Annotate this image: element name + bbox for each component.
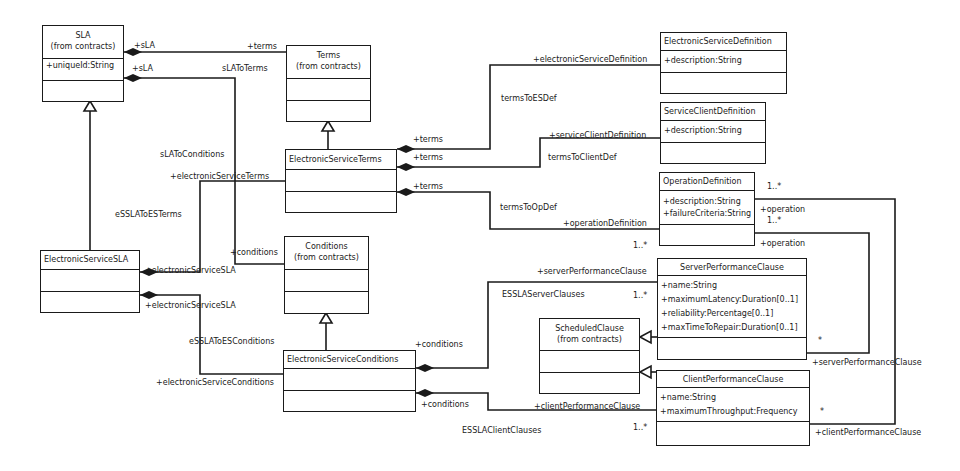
association-name: ESSLAServerClauses	[502, 290, 585, 299]
class-name: OperationDefinition	[663, 177, 742, 186]
attribute: +maximumThroughput:Frequency	[660, 405, 806, 419]
role-label: +electronicServiceDefinition	[533, 55, 647, 64]
role-label: +serviceClientDefinition	[549, 131, 646, 140]
operations-compartment	[660, 225, 754, 245]
role-label: +operation	[760, 239, 805, 248]
role-label: +electronicServiceSLA	[145, 301, 236, 310]
attribute: +maximumLatency:Duration[0..1]	[661, 293, 803, 307]
class-electronic-service-sla[interactable]: ElectronicServiceSLA	[40, 250, 140, 313]
multiplicity: 1..*	[633, 423, 647, 432]
class-electronic-service-conditions[interactable]: ElectronicServiceConditions	[283, 350, 416, 412]
class-name: Terms	[290, 50, 367, 61]
role-label: +sLA	[132, 64, 153, 73]
attribute: +reliability:Percentage[0..1]	[661, 307, 803, 321]
association-name: termsToOpDef	[500, 203, 557, 212]
attribute: +description:String	[664, 126, 762, 137]
role-label: +electronicServiceTerms	[170, 172, 269, 181]
class-name: ScheduledClause	[543, 323, 636, 334]
attribute: +maxTimeToRepair:Duration[0..1]	[661, 321, 803, 335]
class-name: ServiceClientDefinition	[664, 107, 755, 116]
operations-compartment	[658, 338, 806, 359]
role-label: +clientPerformanceClause	[815, 428, 921, 437]
operations-compartment	[285, 292, 368, 313]
class-electronic-service-terms[interactable]: ElectronicServiceTerms	[285, 149, 397, 213]
class-stereotype: (from contracts)	[46, 41, 120, 52]
class-sla[interactable]: SLA (from contracts) +uniqueId:String	[42, 25, 124, 102]
role-label: +conditions	[230, 248, 278, 257]
association-name: termsToClientDef	[548, 153, 617, 162]
association-name: sLAToTerms	[222, 64, 268, 73]
operations-compartment	[287, 101, 370, 121]
role-label: +electronicServiceConditions	[156, 378, 274, 387]
attribute: +uniqueId:String	[46, 61, 120, 72]
attribute: +description:String	[663, 196, 751, 208]
association-name: ESSLAClientClauses	[462, 426, 541, 435]
class-stereotype: (from contracts)	[543, 334, 636, 345]
class-terms[interactable]: Terms (from contracts)	[286, 45, 371, 122]
operations-compartment	[540, 373, 639, 393]
operations-compartment	[284, 391, 415, 411]
role-label: +conditions	[421, 400, 469, 409]
operations-compartment	[661, 143, 765, 163]
association-name: sLAToConditions	[160, 150, 224, 159]
class-operation-definition[interactable]: OperationDefinition +description:String …	[659, 172, 755, 246]
operations-compartment	[286, 192, 396, 212]
role-label: +terms	[413, 135, 443, 144]
association-name: eSSLAToESTerms	[115, 210, 182, 219]
class-stereotype: (from contracts)	[288, 252, 365, 263]
class-name: Conditions	[288, 241, 365, 252]
attribute: +description:String	[664, 56, 783, 67]
attribute: +name:String	[660, 391, 806, 405]
role-label: +terms	[247, 42, 277, 51]
multiplicity: 1..*	[767, 216, 781, 225]
class-name: ServerPerformanceClause	[680, 263, 784, 272]
class-name: ElectronicServiceTerms	[289, 155, 382, 164]
multiplicity: *	[818, 336, 822, 345]
attribute: +failureCriteria:String	[663, 208, 751, 220]
association-name: eSSLAToESConditions	[189, 337, 274, 346]
class-name: ElectronicServiceConditions	[287, 355, 398, 364]
role-label: +terms	[413, 182, 443, 191]
role-label: +serverPerformanceClause	[537, 267, 647, 276]
association-name: termsToESDef	[501, 94, 557, 103]
class-conditions[interactable]: Conditions (from contracts)	[284, 236, 369, 314]
operations-compartment	[41, 292, 139, 312]
role-label: +conditions	[415, 340, 463, 349]
class-stereotype: (from contracts)	[290, 61, 367, 72]
operations-compartment	[43, 81, 123, 101]
class-client-performance-clause[interactable]: ClientPerformanceClause +name:String +ma…	[656, 370, 810, 446]
multiplicity: 1..*	[767, 182, 781, 191]
role-label: +electronicServiceSLA	[145, 266, 236, 275]
role-label: +serverPerformanceClause	[812, 358, 922, 367]
class-name: ElectronicServiceSLA	[44, 255, 128, 264]
class-electronic-service-definition[interactable]: ElectronicServiceDefinition +description…	[660, 32, 787, 94]
operations-compartment	[661, 73, 786, 93]
class-service-client-definition[interactable]: ServiceClientDefinition +description:Str…	[660, 102, 766, 164]
multiplicity: 1..*	[633, 241, 647, 250]
role-label: +terms	[413, 153, 443, 162]
class-name: ClientPerformanceClause	[683, 375, 784, 384]
class-name: SLA	[46, 30, 120, 41]
class-name: ElectronicServiceDefinition	[664, 37, 772, 46]
class-scheduled-clause[interactable]: ScheduledClause (from contracts)	[539, 318, 640, 394]
multiplicity: *	[820, 407, 824, 416]
role-label: +operationDefinition	[563, 219, 647, 228]
role-label: +sLA	[134, 41, 155, 50]
attribute: +name:String	[661, 279, 803, 293]
class-server-performance-clause[interactable]: ServerPerformanceClause +name:String +ma…	[657, 258, 807, 360]
role-label: +operation	[760, 205, 805, 214]
multiplicity: 1..*	[633, 291, 647, 300]
operations-compartment	[657, 422, 809, 445]
role-label: +clientPerformanceClause	[534, 402, 640, 411]
